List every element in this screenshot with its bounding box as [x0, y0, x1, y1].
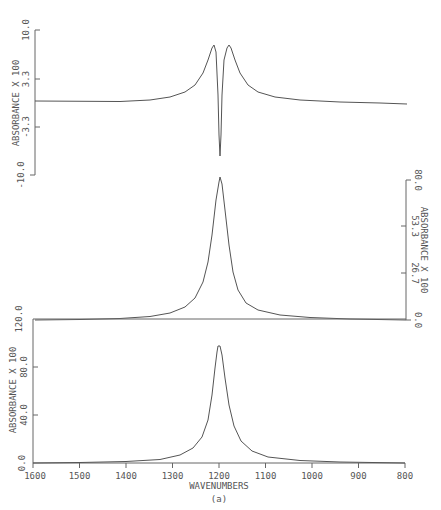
top-y-axis-title: ABSORBANCE X 100 — [11, 60, 21, 147]
bottom-y-axis-title: ABSORBANCE X 100 — [8, 347, 18, 434]
middle-tick-label: 0.0 — [413, 312, 423, 328]
middle-tick-label: 26.7 — [410, 262, 420, 284]
middle-tick-label: 53.3 — [410, 215, 420, 237]
bottom-panel: 120.0 80.0 40.0 0.0 ABSORBANCE X 100 160… — [8, 305, 413, 504]
x-tick-label: 1100 — [255, 471, 277, 481]
top-curve — [35, 45, 407, 156]
middle-y-axis-title: ABSORBANCE X 100 — [419, 207, 429, 294]
bottom-tick-label: 0.0 — [17, 455, 27, 471]
x-tick-label: 1500 — [69, 471, 91, 481]
x-ticks — [33, 463, 405, 468]
bottom-tick-label: 80.0 — [19, 356, 29, 378]
figure-caption: (a) — [211, 494, 227, 504]
middle-tick-label: 80.0 — [413, 169, 423, 191]
middle-curve — [35, 177, 406, 320]
bottom-curve — [33, 346, 405, 463]
top-tick-label: 10.0 — [21, 19, 31, 41]
x-tick-label: 800 — [397, 471, 413, 481]
middle-panel: 80.0 53.3 26.7 0.0 ABSORBANCE X 100 — [35, 169, 429, 328]
top-panel: 10.0 3.3 -3.3 -10.0 ABSORBANCE X 100 — [11, 19, 407, 188]
top-tick-label: -3.3 — [21, 116, 31, 138]
bottom-tick-label: 120.0 — [14, 305, 24, 332]
top-tick-label: -10.0 — [16, 161, 26, 188]
x-tick-label: 900 — [350, 471, 366, 481]
x-tick-label: 1400 — [115, 471, 137, 481]
x-tick-label: 1600 — [24, 471, 46, 481]
bottom-tick-label: 40.0 — [19, 404, 29, 426]
top-tick-label: 3.3 — [21, 71, 31, 87]
x-axis-title: WAVENUMBERS — [189, 481, 249, 491]
x-tick-label: 1000 — [301, 471, 323, 481]
x-tick-label: 1200 — [208, 471, 230, 481]
x-tick-label: 1300 — [162, 471, 184, 481]
spectra-chart: 10.0 3.3 -3.3 -10.0 ABSORBANCE X 100 80.… — [0, 0, 441, 510]
